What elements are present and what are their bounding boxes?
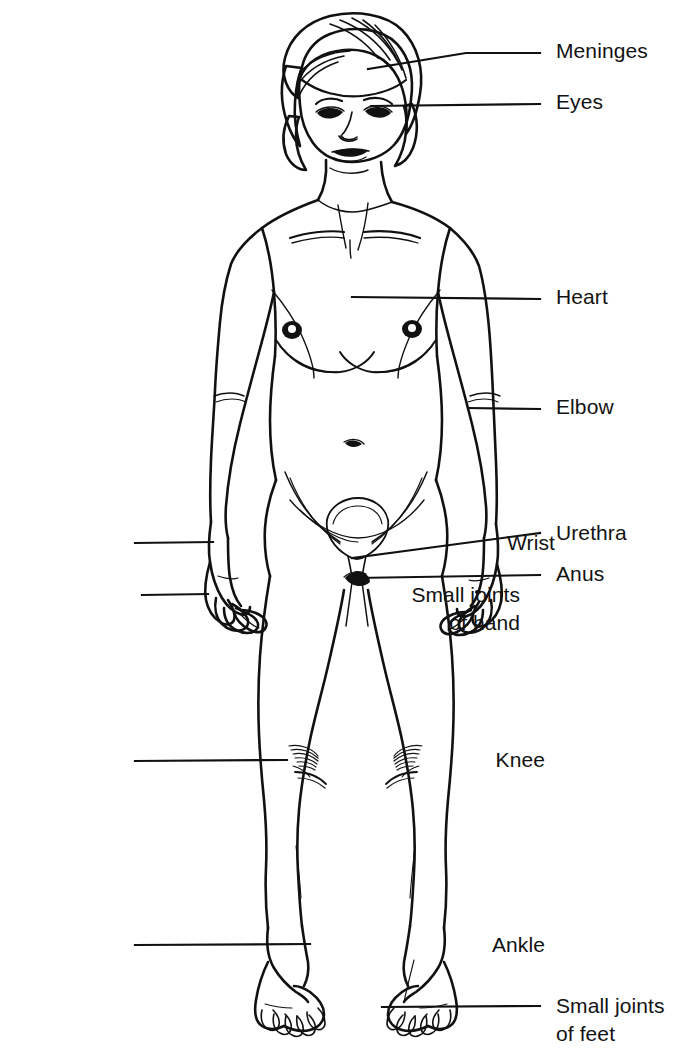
label-text: Elbow bbox=[556, 395, 614, 418]
label-text: Heart bbox=[556, 285, 608, 308]
label-small-joints-of-hand: Small jointsof hand bbox=[411, 581, 520, 637]
label-small-joints-of-feet: Small jointsof feet bbox=[556, 992, 665, 1048]
leader-line-wrist bbox=[135, 542, 213, 543]
label-text-line2: of feet bbox=[556, 1020, 665, 1048]
label-text: Ankle bbox=[492, 933, 545, 956]
label-text: Knee bbox=[496, 748, 545, 771]
label-text: Wrist bbox=[507, 531, 555, 554]
leader-lines bbox=[135, 53, 540, 1007]
label-elbow: Elbow bbox=[556, 393, 614, 421]
label-text: Urethra bbox=[556, 521, 627, 544]
label-text: Meninges bbox=[556, 39, 648, 62]
label-anus: Anus bbox=[556, 560, 604, 588]
label-text: Small joints bbox=[411, 583, 520, 606]
label-urethra: Urethra bbox=[556, 519, 627, 547]
anatomy-figure: MeningesEyesHeartElbowUrethraAnusSmall j… bbox=[0, 0, 680, 1050]
leader-line-anus bbox=[356, 575, 540, 578]
leader-line-small-joints-of-feet bbox=[382, 1006, 540, 1007]
leader-line-heart bbox=[352, 297, 540, 299]
label-text: Small joints bbox=[556, 994, 665, 1017]
label-knee: Knee bbox=[496, 746, 545, 774]
leader-line-small-joints-of-hand bbox=[142, 594, 208, 595]
label-meninges: Meninges bbox=[556, 37, 648, 65]
label-eyes: Eyes bbox=[556, 88, 603, 116]
label-text: Eyes bbox=[556, 90, 603, 113]
label-ankle: Ankle bbox=[492, 931, 545, 959]
label-wrist: Wrist bbox=[507, 529, 555, 557]
label-heart: Heart bbox=[556, 283, 608, 311]
label-text-line2: of hand bbox=[411, 609, 520, 637]
leader-line-knee bbox=[135, 760, 287, 761]
leader-line-eyes bbox=[371, 104, 540, 106]
label-text: Anus bbox=[556, 562, 604, 585]
leader-line-ankle bbox=[135, 944, 310, 945]
leader-line-elbow bbox=[468, 408, 540, 409]
